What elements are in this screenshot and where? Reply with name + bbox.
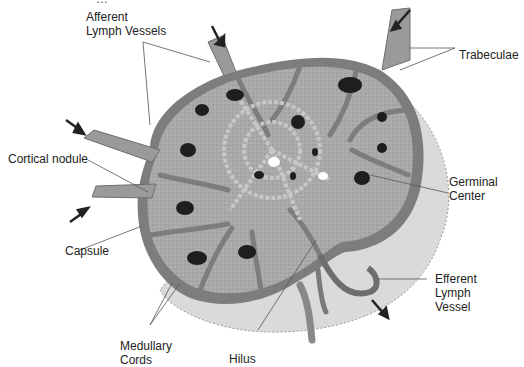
label-afferent-lymph-vessels: Afferent Lymph Vessels xyxy=(86,10,166,38)
label-medullary-cords: Medullary Cords xyxy=(120,339,172,367)
arrow-icon xyxy=(66,120,84,134)
label-efferent-lymph-vessel: Efferent Lymph Vessel xyxy=(435,272,477,314)
lymph-node-diagram: … xyxy=(0,0,524,367)
white-spot-2 xyxy=(318,172,328,180)
arrow-icon xyxy=(70,208,88,222)
label-hilus: Hilus xyxy=(229,352,256,366)
label-germinal-center: Germinal Center xyxy=(449,175,498,203)
central-white-spot xyxy=(268,157,280,167)
label-trabeculae: Trabeculae xyxy=(459,48,519,62)
label-capsule: Capsule xyxy=(65,244,109,258)
label-cortical-nodule: Cortical nodule xyxy=(8,152,88,166)
